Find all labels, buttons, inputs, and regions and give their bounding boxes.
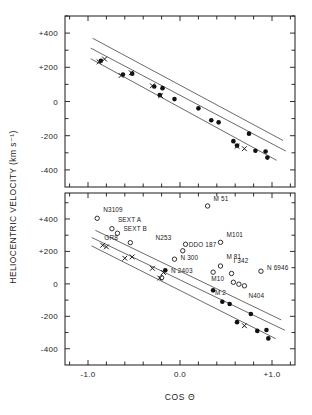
data-point-filled [160,86,165,91]
point-label: GR8 [104,234,118,241]
figure-container: HELIOCENTRIC VELOCITY (km s⁻¹) COS Θ +40… [0,0,312,415]
x-axis-label: COS Θ [165,392,195,402]
point-label: M101 [226,231,243,238]
point-label: N 300 [180,254,198,261]
x-tick-label: 0.0 [174,370,186,379]
data-point-filled [211,288,216,293]
point-label: DDO 187 [189,241,217,248]
y-axis-label: HELIOCENTRIC VELOCITY (km s⁻¹) [8,130,18,283]
point-label: SEXT B [123,225,147,232]
data-point-filled [264,328,269,333]
data-point-filled [247,131,252,136]
point-label: M 51 [214,195,229,202]
data-point-filled [196,106,201,111]
point-label: M10 [211,275,224,282]
point-label: N3109 [103,206,123,213]
point-label: I 342 [234,257,249,264]
y-tick-label: +200 [39,247,58,256]
x-tick-label: +1.0 [264,370,281,379]
point-label: SEXT A [118,216,142,223]
y-tick-label: +400 [39,29,58,38]
data-point-filled [231,139,236,144]
x-tick-label: -1.0 [81,370,96,379]
y-tick-label: -200 [41,312,58,321]
y-tick-label: +200 [39,63,58,72]
data-point-filled [255,329,260,334]
data-point-filled [253,148,258,153]
data-point-filled [249,312,254,317]
point-label: N 2403 [171,267,193,274]
data-point-filled [266,336,271,341]
data-point-filled [220,299,225,304]
point-label: M 2 [215,289,226,296]
point-label: N 6946 [267,264,289,271]
data-point-filled [172,97,177,102]
y-tick-label: -400 [41,166,58,175]
data-point-filled [235,320,240,325]
data-point-filled [265,155,270,160]
data-point-filled [216,120,221,125]
y-tick-label: +400 [39,215,58,224]
point-label: N404 [248,292,264,299]
y-tick-label: -200 [41,132,58,141]
data-point-filled [227,302,232,307]
data-point-filled [263,149,268,154]
y-tick-label: -400 [41,345,58,354]
scatter-figure: HELIOCENTRIC VELOCITY (km s⁻¹) COS Θ +40… [0,0,312,415]
data-point-filled [209,118,214,123]
y-tick-label: 0 [53,280,58,289]
point-label: N253 [156,234,172,241]
y-tick-label: 0 [53,98,58,107]
